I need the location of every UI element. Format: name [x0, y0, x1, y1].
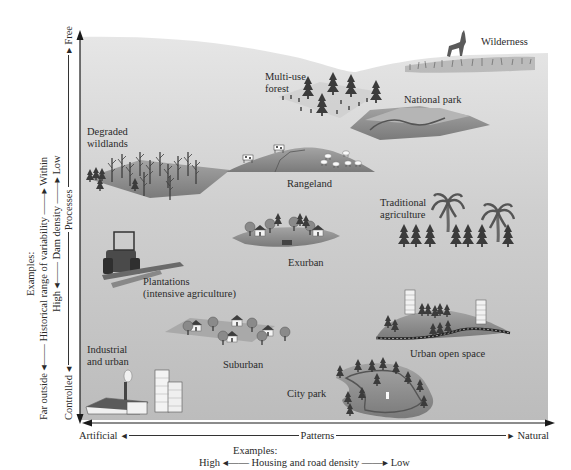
- label-rangeland: Rangeland: [287, 178, 332, 190]
- y-axis-label: Processes: [63, 189, 74, 230]
- label-line: agriculture: [380, 209, 426, 221]
- x-axis-housing-scale: High ◂—— Housing and road density ——▸ Lo…: [199, 456, 410, 468]
- hrv-label: Historical range of variability: [38, 217, 49, 342]
- housing-label: Housing and road density: [252, 457, 360, 468]
- x-axis-left-label: Artificial: [79, 430, 117, 441]
- label-line: Multi-use: [265, 71, 306, 83]
- y-axis-examples-heading: Examples:: [25, 252, 36, 296]
- arrow-left-icon: ◂: [121, 429, 126, 441]
- label-city-park: City park: [287, 388, 326, 400]
- arrow-left-icon: ◂——: [38, 342, 49, 371]
- y-axis-bottom-label: Controlled: [63, 375, 74, 420]
- arrow-left-icon: ◂——: [51, 259, 62, 288]
- arrow-left-icon: ◂: [62, 367, 74, 372]
- label-national-park: National park: [404, 94, 461, 106]
- label-line: Industrial: [87, 344, 129, 356]
- label-plantations: Plantations (intensive agriculture): [143, 276, 236, 300]
- label-suburban: Suburban: [223, 359, 263, 371]
- x-axis-label: Patterns: [301, 430, 335, 441]
- label-line: Degraded: [87, 126, 128, 138]
- label-line: (intensive agriculture): [143, 288, 236, 300]
- label-line: forest: [265, 83, 306, 95]
- label-urban-open-space: Urban open space: [410, 348, 485, 360]
- label-exurban: Exurban: [288, 257, 324, 269]
- x-axis-patterns-scale: Artificial ◂ Patterns ▸ Natural: [79, 429, 549, 441]
- x-axis-scale-line: [336, 435, 506, 436]
- x-axis-line: [82, 420, 555, 427]
- hrv-bottom-label: Far outside: [38, 373, 49, 420]
- y-axis-processes-scale: Controlled ◂ Processes ▸ Free: [62, 26, 74, 420]
- label-wilderness: Wilderness: [481, 36, 528, 48]
- y-axis-hrv-scale: Far outside ◂—— Historical range of vari…: [37, 157, 49, 420]
- landscape-diagram: Examples: Far outside ◂—— Historical ran…: [0, 0, 571, 470]
- arrow-right-icon: ——▸: [51, 175, 62, 204]
- label-line: Plantations: [143, 276, 236, 288]
- label-line: wildlands: [87, 138, 128, 150]
- x-axis-scale-line: [129, 435, 299, 436]
- arrow-right-icon: ——▸: [362, 457, 391, 468]
- arrow-left-icon: ◂——: [223, 457, 252, 468]
- arrow-right-icon: ▸: [508, 429, 513, 441]
- housing-right-label: Low: [391, 457, 410, 468]
- x-axis-right-label: Natural: [518, 430, 550, 441]
- x-axis-examples-heading: Examples:: [233, 445, 277, 456]
- label-multi-use-forest: Multi-use forest: [265, 71, 306, 95]
- arrow-right-icon: ——▸: [38, 186, 49, 215]
- label-line: Traditional: [380, 197, 426, 209]
- label-traditional-agriculture: Traditional agriculture: [380, 197, 426, 221]
- hrv-top-label: Within: [38, 157, 49, 186]
- arrow-right-icon: ▸: [62, 48, 74, 53]
- label-industrial-urban: Industrial and urban: [87, 344, 129, 368]
- label-line: and urban: [87, 356, 129, 368]
- housing-left-label: High: [199, 457, 220, 468]
- dam-top-label: Low: [51, 155, 62, 174]
- dam-label: Dam density: [51, 206, 62, 259]
- dam-bottom-label: High: [51, 291, 62, 312]
- y-axis-dam-density-scale: High ◂—— Dam density ——▸ Low: [50, 155, 62, 312]
- y-axis-scale-line: [68, 55, 69, 188]
- y-axis-scale-line: [68, 232, 69, 365]
- label-degraded-wildlands: Degraded wildlands: [87, 126, 128, 150]
- y-axis-top-label: Free: [63, 26, 74, 45]
